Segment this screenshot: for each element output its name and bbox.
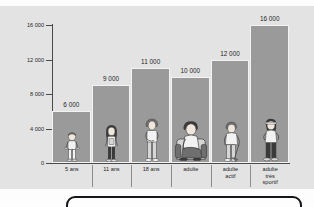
category-separator — [250, 165, 251, 187]
bar-illustration — [174, 120, 208, 162]
x-axis-category-label: adulte actif — [211, 166, 251, 179]
x-axis-category-label: adulte — [171, 166, 211, 173]
y-tick-label: 12 000 — [0, 57, 44, 63]
x-axis-category-label: adulte très sportif — [250, 166, 290, 186]
bar-illustration — [259, 117, 283, 162]
bar — [131, 68, 170, 163]
bar-value-label: 9 000 — [103, 75, 119, 82]
bar-illustration — [141, 118, 163, 162]
x-axis-category-label: 11 ans — [92, 166, 132, 173]
category-separator — [171, 165, 172, 187]
x-axis-category-label: 18 ans — [131, 166, 171, 173]
bar-value-label: 16 000 — [260, 15, 280, 22]
x-axis-category-strip: 5 ans11 ans18 ansadulteadulte actifadult… — [52, 164, 290, 189]
category-separator — [131, 165, 132, 187]
bar-illustration — [219, 121, 243, 162]
y-tick-label: 8 000 — [0, 91, 44, 97]
bottom-callout-box — [66, 196, 302, 207]
bar — [250, 25, 289, 163]
category-separator — [211, 165, 212, 187]
category-separator — [92, 165, 93, 187]
y-tick-label: 4 000 — [0, 126, 44, 132]
plot-area — [52, 25, 290, 163]
y-tick-label: 16 000 — [0, 22, 44, 28]
bar — [171, 77, 210, 163]
bar-value-label: 10 000 — [181, 67, 201, 74]
bar-illustration — [101, 124, 122, 162]
bar — [211, 60, 250, 164]
bar-illustration — [62, 131, 82, 162]
bar — [92, 85, 131, 163]
figure-root: 04 0008 00012 00016 000 — [0, 0, 314, 207]
y-tick-label: 0 — [0, 160, 44, 166]
bar-value-label: 6 000 — [63, 101, 79, 108]
x-axis-category-label: 5 ans — [52, 166, 92, 173]
bar-value-label: 12 000 — [220, 50, 240, 57]
bar-value-label: 11 000 — [141, 58, 160, 65]
bar — [52, 111, 91, 163]
